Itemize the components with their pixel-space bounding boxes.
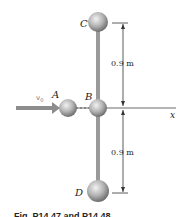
label-c: C xyxy=(80,18,88,29)
sphere-a xyxy=(59,99,77,117)
sphere-c xyxy=(88,12,108,32)
dimension-upper-label: 0.9 m xyxy=(111,59,134,68)
velocity-arrow xyxy=(16,102,60,114)
label-b: B xyxy=(84,91,92,102)
label-a: A xyxy=(51,89,59,100)
figure-caption: Fig. P14.47 and P14.48 xyxy=(14,211,111,217)
sphere-d xyxy=(87,180,109,202)
label-x-axis: x xyxy=(170,110,175,120)
label-v0: v0 xyxy=(36,94,43,103)
label-d: D xyxy=(74,187,83,198)
dimension-lower-label: 0.9 m xyxy=(111,148,134,157)
figure-diagram: C A B D v0 x 0.9 m 0.9 m xyxy=(0,0,186,217)
